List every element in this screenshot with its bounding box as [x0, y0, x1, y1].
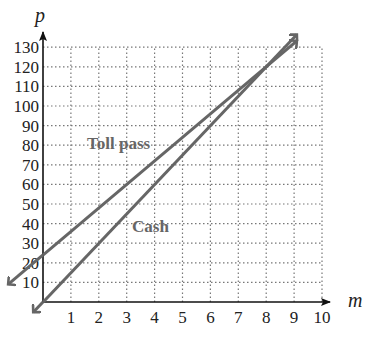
- y-tick-label: 110: [14, 77, 39, 96]
- y-tick-label: 50: [22, 195, 39, 214]
- x-tick-label: 1: [67, 308, 76, 327]
- y-tick-label: 90: [22, 117, 39, 136]
- grid: [43, 47, 322, 302]
- x-tick-label: 6: [206, 308, 215, 327]
- x-tick-label: 5: [178, 308, 187, 327]
- label-toll-pass: Toll pass: [87, 134, 151, 153]
- y-tick-label: 40: [22, 215, 39, 234]
- label-cash: Cash: [132, 217, 169, 236]
- y-axis-label: p: [33, 4, 45, 27]
- axes: mp: [33, 4, 362, 311]
- x-tick-label: 2: [95, 308, 104, 327]
- y-tick-label: 120: [14, 58, 40, 77]
- linear-functions-chart: mp 1234567891010203040506070809010011012…: [0, 0, 368, 338]
- series-lines: [8, 34, 297, 312]
- x-tick-label: 3: [122, 308, 131, 327]
- y-tick-label: 10: [22, 273, 39, 292]
- x-tick-label: 8: [262, 308, 271, 327]
- y-tick-label: 80: [22, 136, 39, 155]
- y-tick-label: 60: [22, 175, 39, 194]
- x-tick-label: 9: [290, 308, 299, 327]
- y-tick-label: 100: [14, 97, 40, 116]
- y-tick-label: 30: [22, 234, 39, 253]
- y-tick-label: 130: [14, 38, 40, 57]
- x-tick-label: 7: [234, 308, 243, 327]
- x-tick-label: 4: [150, 308, 159, 327]
- y-tick-label: 70: [22, 156, 39, 175]
- x-tick-label: 10: [314, 308, 331, 327]
- x-axis-label: m: [348, 289, 362, 311]
- series-toll-pass: [8, 41, 297, 284]
- series-cash: [33, 34, 297, 312]
